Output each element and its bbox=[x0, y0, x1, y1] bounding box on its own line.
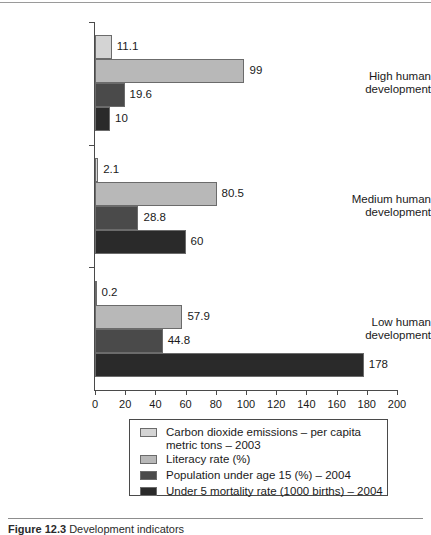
legend-entry: Under 5 mortality rate (1000 births) – 2… bbox=[140, 485, 383, 498]
legend-entry: Carbon dioxide emissions – per capita me… bbox=[140, 426, 361, 452]
bar-value-label: 2.1 bbox=[103, 164, 119, 176]
figure-caption-label: Figure 12.3 bbox=[8, 523, 66, 535]
bar bbox=[95, 107, 110, 131]
chart-legend: Carbon dioxide emissions – per capita me… bbox=[129, 419, 388, 496]
top-divider bbox=[0, 2, 431, 3]
x-axis-tick-label: 180 bbox=[358, 398, 376, 410]
x-axis-tick-label: 120 bbox=[267, 398, 285, 410]
x-axis-tick-label: 160 bbox=[327, 398, 345, 410]
x-axis-tick bbox=[276, 390, 277, 395]
y-axis-tick bbox=[89, 267, 95, 268]
figure-caption: Figure 12.3 Development indicators bbox=[8, 523, 184, 535]
x-axis-tick bbox=[367, 390, 368, 395]
x-axis-tick bbox=[397, 390, 398, 395]
legend-swatch bbox=[140, 428, 157, 437]
legend-label: Carbon dioxide emissions – per capita me… bbox=[166, 426, 361, 452]
x-axis-tick bbox=[246, 390, 247, 395]
legend-label: Population under age 15 (%) – 2004 bbox=[166, 469, 351, 482]
bar bbox=[95, 281, 97, 305]
category-label: Low humandevelopment bbox=[339, 316, 431, 342]
bar-value-label: 57.9 bbox=[187, 311, 209, 323]
bar bbox=[95, 83, 125, 107]
x-axis-tick-label: 40 bbox=[149, 398, 161, 410]
x-axis-tick bbox=[216, 390, 217, 395]
bar bbox=[95, 35, 112, 59]
bar-value-label: 10 bbox=[115, 113, 128, 125]
x-axis-tick-label: 60 bbox=[179, 398, 191, 410]
category-label: High humandevelopment bbox=[339, 70, 431, 96]
bar-value-label: 44.8 bbox=[168, 335, 190, 347]
x-axis-tick-label: 20 bbox=[119, 398, 131, 410]
bar-value-label: 28.8 bbox=[143, 212, 165, 224]
bar bbox=[95, 206, 138, 230]
bar bbox=[95, 305, 182, 329]
bar bbox=[95, 230, 186, 254]
bar-value-label: 178 bbox=[369, 359, 388, 371]
bar-value-label: 60 bbox=[191, 236, 204, 248]
figure-caption-text: Development indicators bbox=[69, 523, 184, 535]
x-axis-tick bbox=[155, 390, 156, 395]
x-axis-tick bbox=[95, 390, 96, 395]
x-axis-tick bbox=[337, 390, 338, 395]
x-axis-tick-label: 80 bbox=[210, 398, 222, 410]
x-axis-tick-label: 100 bbox=[237, 398, 255, 410]
legend-label: Under 5 mortality rate (1000 births) – 2… bbox=[166, 485, 383, 498]
bar-value-label: 99 bbox=[249, 65, 262, 77]
legend-swatch bbox=[140, 471, 157, 480]
category-label-line: Low human bbox=[339, 316, 431, 329]
bar bbox=[95, 329, 163, 353]
legend-entry: Literacy rate (%) bbox=[140, 453, 250, 466]
legend-swatch bbox=[140, 487, 157, 496]
legend-entry: Population under age 15 (%) – 2004 bbox=[140, 469, 351, 482]
x-axis-tick-label: 140 bbox=[297, 398, 315, 410]
x-axis-tick bbox=[125, 390, 126, 395]
x-axis-tick-label: 0 bbox=[92, 398, 98, 410]
bar bbox=[95, 182, 217, 206]
category-label-line: development bbox=[339, 329, 431, 342]
category-label-line: High human bbox=[339, 70, 431, 83]
legend-swatch bbox=[140, 455, 157, 464]
bar-value-label: 11.1 bbox=[117, 41, 139, 53]
bottom-divider bbox=[8, 518, 423, 519]
category-label: Medium humandevelopment bbox=[339, 193, 431, 219]
bar-value-label: 0.2 bbox=[102, 287, 118, 299]
bar-value-label: 80.5 bbox=[222, 188, 244, 200]
bar bbox=[95, 158, 98, 182]
y-axis-tick bbox=[89, 22, 95, 23]
x-axis-tick bbox=[306, 390, 307, 395]
bar bbox=[95, 59, 244, 83]
bar bbox=[95, 353, 364, 377]
category-label-line: Medium human bbox=[339, 193, 431, 206]
legend-label: Literacy rate (%) bbox=[166, 453, 250, 466]
bar-value-label: 19.6 bbox=[130, 89, 152, 101]
category-label-line: development bbox=[339, 206, 431, 219]
category-label-line: development bbox=[339, 83, 431, 96]
x-axis-tick bbox=[186, 390, 187, 395]
x-axis-tick-label: 200 bbox=[388, 398, 406, 410]
y-axis-tick bbox=[89, 145, 95, 146]
